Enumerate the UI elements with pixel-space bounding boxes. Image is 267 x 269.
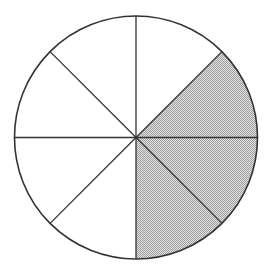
slice-divider-lines (15, 16, 258, 259)
circle-divided-into-eighths (0, 0, 267, 269)
fraction-circle-diagram: 3/8 (0, 0, 267, 269)
